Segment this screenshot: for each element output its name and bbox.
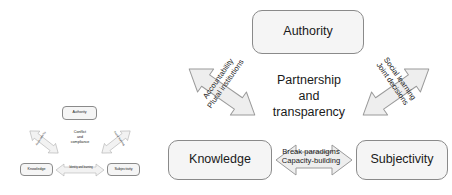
arrow-authority-subjectivity xyxy=(355,58,437,127)
node-knowledge[interactable]: Knowledge xyxy=(168,140,272,180)
arrow-knowledge-authority xyxy=(181,58,263,127)
arrow-sm-knowledge-subjectivity xyxy=(56,164,104,176)
small-node-subjectivity[interactable]: Subjectivity xyxy=(107,163,140,176)
center-caption: Partnership and transparency xyxy=(252,72,366,120)
small-node-knowledge[interactable]: Knowledge xyxy=(20,163,53,176)
small-center-caption: Conflict and compliance xyxy=(62,130,98,145)
small-node-authority[interactable]: Authority xyxy=(62,106,97,120)
node-authority[interactable]: Authority xyxy=(252,10,364,54)
node-subjectivity[interactable]: Subjectivity xyxy=(356,140,448,180)
arrow-sm-authority-subjectivity xyxy=(98,126,134,158)
arrow-sm-knowledge-authority xyxy=(26,126,62,158)
arrow-knowledge-subjectivity xyxy=(276,145,352,175)
diagram-canvas: Authority Knowledge Subjectivity Partner… xyxy=(0,0,452,195)
